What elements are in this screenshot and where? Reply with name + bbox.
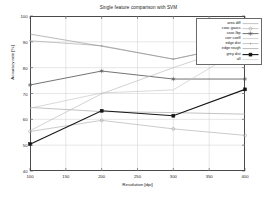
series-line: [30, 120, 245, 135]
chart-title: Single feature comparison with SVM: [0, 5, 277, 10]
x-tick-label: 350: [206, 174, 213, 179]
legend-item[interactable]: all: [198, 57, 259, 62]
series-line: [30, 89, 245, 144]
chart-legend: area diffcooc gausscooc lbpcorr coeffedg…: [196, 18, 262, 65]
chart-figure: Single feature comparison with SVM 40506…: [0, 0, 277, 202]
series-line: [30, 71, 245, 85]
y-tick-label: 100: [21, 14, 28, 19]
y-tick-label: 50: [23, 143, 28, 148]
x-tick-label: 150: [62, 174, 69, 179]
y-tick-label: 70: [23, 91, 28, 96]
x-tick-label: 200: [98, 174, 105, 179]
y-tick-label: 60: [23, 117, 28, 122]
x-tick-label: 300: [170, 174, 177, 179]
y-tick-label: 90: [23, 39, 28, 44]
legend-color-swatch: [242, 57, 259, 62]
x-tick-label: 100: [27, 174, 34, 179]
y-tick-label: 80: [23, 65, 28, 70]
x-tick-label: 250: [134, 174, 141, 179]
x-axis-label: Resolution [dpi]: [30, 182, 245, 187]
y-axis-label: Accuracy rate [%]: [10, 23, 15, 103]
x-tick-label: 400: [242, 174, 249, 179]
